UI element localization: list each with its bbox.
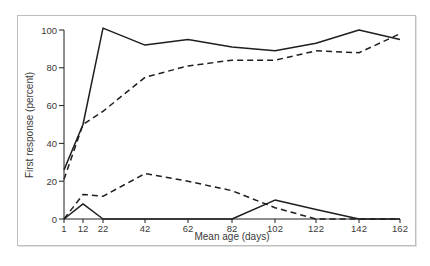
series-upper-dashed bbox=[64, 34, 400, 180]
series-layer bbox=[64, 28, 400, 219]
x-tick-label: 122 bbox=[308, 223, 324, 234]
x-tick-label: 142 bbox=[351, 223, 367, 234]
y-tick-label: 40 bbox=[46, 138, 57, 149]
x-tick-label: 42 bbox=[140, 223, 151, 234]
x-tick-label: 1 bbox=[61, 223, 66, 234]
x-tick-label: 162 bbox=[392, 223, 408, 234]
series-upper-solid bbox=[64, 28, 400, 170]
y-tick-label: 20 bbox=[46, 176, 57, 187]
axes: 02040608010011222426282102122142162 bbox=[41, 25, 408, 235]
series-lower-solid bbox=[64, 200, 400, 219]
x-tick-label: 12 bbox=[78, 223, 89, 234]
y-tick-label: 100 bbox=[41, 25, 57, 36]
line-chart: 02040608010011222426282102122142162 Mean… bbox=[0, 0, 430, 266]
x-tick-label: 22 bbox=[98, 223, 109, 234]
y-tick-label: 0 bbox=[52, 214, 57, 225]
y-tick-label: 80 bbox=[46, 62, 57, 73]
x-tick-label: 62 bbox=[183, 223, 194, 234]
x-axis-title: Mean age (days) bbox=[194, 231, 269, 242]
series-lower-dashed bbox=[64, 174, 400, 219]
y-axis-title: First response (percent) bbox=[24, 72, 35, 178]
y-tick-label: 60 bbox=[46, 100, 57, 111]
